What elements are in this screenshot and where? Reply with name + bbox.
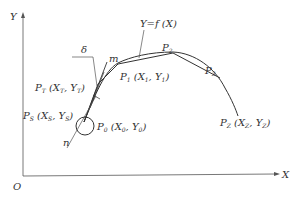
- chord-polyline: [84, 53, 220, 122]
- curve-approximation-diagram: Y X O δ m n Y=f (X) P2 P3 P1 (X1, Y1) PT…: [0, 0, 293, 200]
- p0-coord-close: ): [141, 121, 146, 132]
- p1-coord-open: (X: [131, 71, 146, 82]
- p0-coord-open: (X: [108, 121, 123, 132]
- p2-label: P2: [161, 42, 173, 54]
- pt-coord-open: (X: [46, 82, 61, 93]
- pz-label: PZ (XZ, YZ): [219, 117, 270, 129]
- m-label: m: [109, 53, 118, 64]
- p3-sub: 3: [212, 70, 216, 77]
- p3-label: P3: [204, 65, 216, 77]
- pz-coord-close: ): [265, 117, 270, 128]
- p1-coord-close: ): [164, 71, 169, 82]
- tangent-line: [84, 62, 107, 122]
- axes: [23, 16, 276, 176]
- delta-label: δ: [81, 44, 87, 55]
- n-label: n: [63, 137, 69, 148]
- x-axis-arrow-icon: [274, 172, 280, 176]
- ps-label: PS (XS, YS): [22, 110, 73, 122]
- curve-label-leader: [139, 30, 144, 58]
- y-axis-label: Y: [10, 11, 18, 22]
- ps-coord-open: (X: [34, 110, 49, 121]
- y-axis-arrow-icon: [21, 12, 25, 18]
- x-axis: [23, 174, 276, 176]
- pt-label: PT (XT, YT): [34, 82, 85, 94]
- p1-label: P1 (X1, Y1): [119, 71, 169, 83]
- x-axis-label: X: [281, 169, 290, 180]
- pt-coord-close: ): [80, 82, 85, 93]
- p0-label: P0 (X0, Y0): [96, 121, 146, 133]
- origin-label: O: [13, 181, 21, 192]
- ps-coord-close: ): [68, 110, 73, 121]
- curve-label: Y=f (X): [140, 18, 177, 29]
- line-n: [67, 96, 96, 148]
- pz-coord-open: (X: [231, 117, 246, 128]
- p2-sub: 2: [168, 47, 173, 54]
